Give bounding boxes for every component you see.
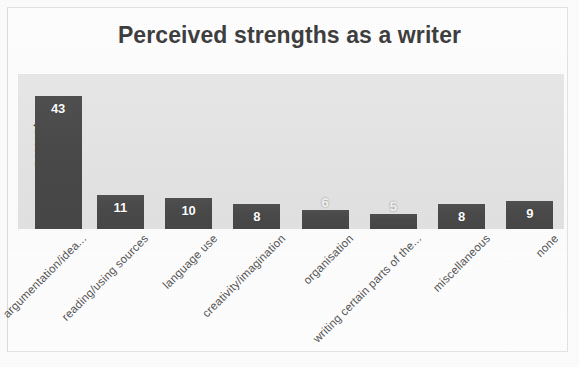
bar-group: 8 xyxy=(438,74,485,229)
bar: 43 xyxy=(35,96,82,229)
bar-value-label: 43 xyxy=(35,101,82,116)
bar-group: 9 xyxy=(506,74,553,229)
bar-value-label: 6 xyxy=(302,195,349,210)
bar-group: 43 xyxy=(35,74,82,229)
bar-value-label: 10 xyxy=(165,203,212,218)
bar: 9 xyxy=(506,201,553,229)
bar-group: 6 xyxy=(302,74,349,229)
category-label: none xyxy=(533,232,560,259)
category-label: writing certain parts of the... xyxy=(311,232,424,345)
bar-value-label: 5 xyxy=(370,199,417,214)
bar-value-label: 8 xyxy=(233,209,280,224)
bar-group: 11 xyxy=(97,74,144,229)
bar-value-label: 8 xyxy=(438,209,485,224)
bar: 10 xyxy=(165,198,212,229)
bar: 5 xyxy=(370,214,417,230)
chart-title: Perceived strengths as a writer xyxy=(0,22,579,49)
chart-screenshot: Perceived strengths as a writer percent … xyxy=(0,0,579,367)
bar-group: 5 xyxy=(370,74,417,229)
bar: 6 xyxy=(302,210,349,229)
bars-layer: 43111086589 xyxy=(18,74,564,229)
bar-group: 10 xyxy=(165,74,212,229)
category-axis-labels: argumentation/idea...reading/using sourc… xyxy=(18,232,564,352)
category-label: miscellaneous xyxy=(430,232,492,294)
bar: 8 xyxy=(233,204,280,229)
bar: 8 xyxy=(438,204,485,229)
bar-value-label: 9 xyxy=(506,206,553,221)
bar-group: 8 xyxy=(233,74,280,229)
category-label: language use xyxy=(160,232,219,291)
bar-value-label: 11 xyxy=(97,200,144,215)
category-label: organisation xyxy=(301,232,355,286)
bar: 11 xyxy=(97,195,144,229)
